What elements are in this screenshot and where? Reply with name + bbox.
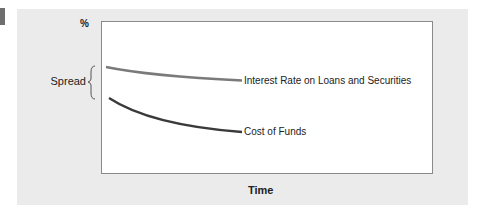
spread-bracket-icon: [88, 66, 95, 99]
interest-rate-line: [106, 67, 242, 81]
chart-lines: [0, 0, 491, 215]
series-label-cost-of-funds: Cost of Funds: [244, 126, 306, 137]
cost-of-funds-line: [109, 98, 242, 132]
series-label-interest-rate: Interest Rate on Loans and Securities: [244, 75, 411, 86]
